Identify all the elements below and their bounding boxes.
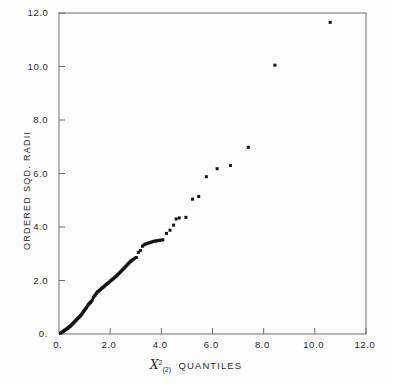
x-axis-title: X2(2) QUANTILES [150,358,242,373]
y-tick-label: 12.0 [28,7,49,18]
y-axis-ticks [59,13,65,281]
y-axis-title: ORDERED SQD. RADII [22,131,32,250]
data-point [135,256,138,259]
x-tick-label: 0. [53,339,62,350]
data-point [169,229,172,232]
x-tick-label: 8.0 [255,339,270,350]
data-point [191,198,194,201]
data-point [165,232,168,235]
chi-symbol: X [150,358,159,372]
data-point [178,216,181,219]
data-point [216,167,219,170]
y-tick-label: 4.0 [33,221,48,232]
data-points-group [59,21,332,335]
y-tick-label: 10.0 [28,61,49,72]
data-point [329,21,332,24]
data-point [247,146,250,149]
x-axis-title-text: QUANTILES [179,360,243,371]
data-point [172,224,175,227]
chi-subscript: (2) [162,366,171,373]
y-tick-label: 8.0 [33,114,48,125]
data-point [273,64,276,67]
data-point [175,217,178,220]
x-tick-label: 10.0 [303,339,324,350]
x-tick-label: 4.0 [153,339,168,350]
x-tick-label: 12.0 [354,339,375,350]
plot-canvas [0,0,393,384]
x-axis-ticks [110,328,366,334]
x-tick-label: 2.0 [101,339,116,350]
data-point [205,175,208,178]
y-tick-label: 6.0 [33,168,48,179]
data-point [229,164,232,167]
data-point [161,238,164,241]
data-point [139,249,142,252]
chi-square-qq-plot-figure: 0.2.04.06.08.010.012.0 0.2.04.06.08.010.… [0,0,393,384]
data-point [184,216,187,219]
y-tick-label: 2.0 [33,275,48,286]
chi-superscript: 2 [159,359,163,366]
data-point [197,195,200,198]
y-tick-label: 0. [39,328,48,339]
x-tick-label: 6.0 [204,339,219,350]
